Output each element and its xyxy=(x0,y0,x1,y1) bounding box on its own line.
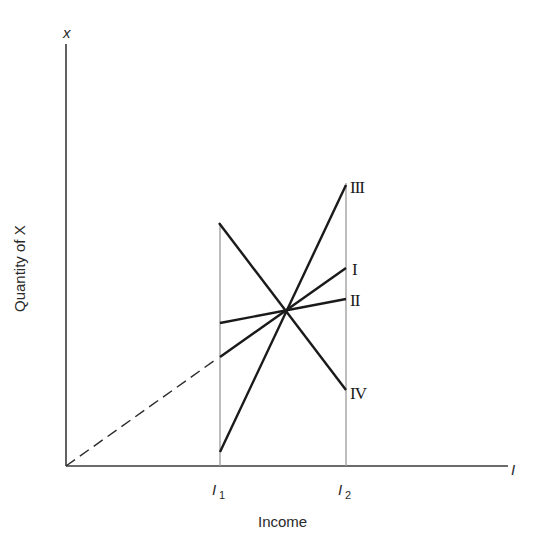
svg-text:I: I xyxy=(212,481,216,498)
svg-text:I: I xyxy=(338,481,342,498)
tick-I2: I 2 xyxy=(338,481,351,501)
tick-I1: I 1 xyxy=(212,481,225,501)
svg-text:1: 1 xyxy=(219,489,225,501)
label-I: I xyxy=(352,260,358,279)
label-II: II xyxy=(350,291,361,310)
label-IV: IV xyxy=(350,384,368,403)
x-axis-title: Income xyxy=(258,513,307,530)
y-axis-title: Quantity of X xyxy=(11,225,28,312)
line-IV xyxy=(219,223,346,390)
income-effect-diagram: III I II IV x I I 1 I 2 Income Quantity … xyxy=(0,0,534,534)
label-III: III xyxy=(350,178,365,197)
x-axis-var-label: I xyxy=(511,461,515,478)
svg-text:2: 2 xyxy=(345,489,351,501)
dashed-extension-line xyxy=(66,358,218,466)
y-axis-var-label: x xyxy=(62,24,71,41)
line-I xyxy=(220,268,346,357)
